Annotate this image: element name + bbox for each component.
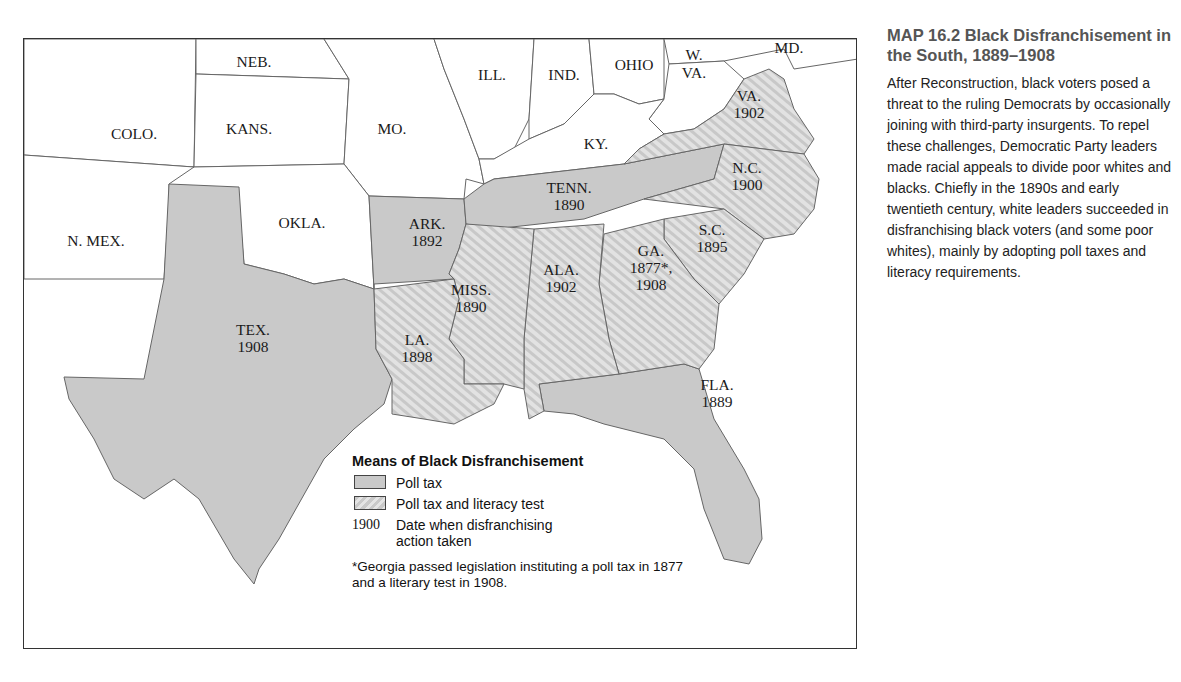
- state-year: 1898: [402, 348, 433, 365]
- state-name: KANS.: [226, 120, 272, 137]
- state-name: ILL.: [478, 66, 506, 83]
- map-caption: MAP 16.2 Black Disfranchisement in the S…: [887, 25, 1177, 283]
- state-name: S.C.: [697, 221, 728, 238]
- state-name: W. VA.: [674, 46, 714, 82]
- label-neb: NEB.: [237, 53, 272, 70]
- label-mo: MO.: [378, 120, 407, 137]
- state-name: ALA.: [543, 261, 579, 278]
- state-name: FLA.: [700, 376, 733, 393]
- state-year: 1892: [409, 232, 446, 249]
- label-ind: IND.: [548, 66, 579, 83]
- caption-body: After Reconstruction, black voters posed…: [887, 73, 1177, 283]
- state-year: 1877*, 1908: [628, 259, 674, 293]
- legend-label: Date when disfranchising action taken: [396, 517, 576, 549]
- legend-label: Poll tax and literacy test: [396, 496, 544, 512]
- label-va: VA.1902: [734, 87, 765, 121]
- label-ga: GA.1877*, 1908: [628, 242, 674, 293]
- state-name: OHIO: [615, 56, 654, 73]
- state-name: ARK.: [409, 215, 446, 232]
- state-year: 1908: [236, 338, 270, 355]
- state-name: VA.: [734, 87, 765, 104]
- state-year: 1890: [546, 196, 591, 213]
- map-frame: COLO. NEB. KANS. MO. ILL. IND. OHIO MD. …: [23, 38, 857, 649]
- legend-title: Means of Black Disfranchisement: [352, 453, 772, 469]
- label-nmex: N. MEX.: [67, 232, 124, 249]
- state-name: GA.: [628, 242, 674, 259]
- label-md: MD.: [775, 39, 804, 56]
- poll-tax-swatch-icon: [354, 475, 386, 489]
- caption-title: MAP 16.2 Black Disfranchisement in the S…: [887, 25, 1177, 65]
- state-name: NEB.: [237, 53, 272, 70]
- state-name: N. MEX.: [67, 232, 124, 249]
- state-year: 1889: [700, 393, 733, 410]
- state-year: 1902: [734, 104, 765, 121]
- label-la: LA.1898: [402, 331, 433, 365]
- legend-item-poll-tax: Poll tax: [352, 475, 772, 491]
- label-nc: N.C.1900: [732, 159, 763, 193]
- label-miss: MISS.1890: [451, 281, 491, 315]
- state-year: 1902: [543, 278, 579, 295]
- label-ill: ILL.: [478, 66, 506, 83]
- label-tenn: TENN.1890: [546, 179, 591, 213]
- legend-label: Poll tax: [396, 475, 442, 491]
- state-name: N.C.: [732, 159, 763, 176]
- state-name: MISS.: [451, 281, 491, 298]
- state-year: 1890: [451, 298, 491, 315]
- state-name: KY.: [584, 135, 608, 152]
- label-wva: W. VA.: [674, 46, 714, 82]
- label-ala: ALA.1902: [543, 261, 579, 295]
- state-name: LA.: [402, 331, 433, 348]
- state-name: MD.: [775, 39, 804, 56]
- map-legend: Means of Black Disfranchisement Poll tax…: [352, 453, 772, 591]
- label-sc: S.C.1895: [697, 221, 728, 255]
- state-year: 1900: [732, 176, 763, 193]
- state-name: IND.: [548, 66, 579, 83]
- legend-year-sample: 1900: [352, 517, 386, 533]
- legend-footnote: *Georgia passed legislation instituting …: [352, 559, 702, 591]
- label-colo: COLO.: [111, 125, 157, 142]
- state-year: 1895: [697, 238, 728, 255]
- state-name: TEX.: [236, 321, 270, 338]
- state-name: TENN.: [546, 179, 591, 196]
- label-fla: FLA.1889: [700, 376, 733, 410]
- label-ohio: OHIO: [615, 56, 654, 73]
- state-name: OKLA.: [279, 214, 326, 231]
- state-name: MO.: [378, 120, 407, 137]
- label-okla: OKLA.: [279, 214, 326, 231]
- legend-item-poll-tax-literacy: Poll tax and literacy test: [352, 496, 772, 512]
- label-ky: KY.: [584, 135, 608, 152]
- state-name: COLO.: [111, 125, 157, 142]
- legend-item-date: 1900 Date when disfranchising action tak…: [352, 517, 772, 549]
- hatched-swatch-icon: [354, 496, 386, 510]
- state-colo: [24, 39, 196, 167]
- label-ark: ARK.1892: [409, 215, 446, 249]
- state-neb: [196, 39, 349, 79]
- label-tex: TEX.1908: [236, 321, 270, 355]
- label-kans: KANS.: [226, 120, 272, 137]
